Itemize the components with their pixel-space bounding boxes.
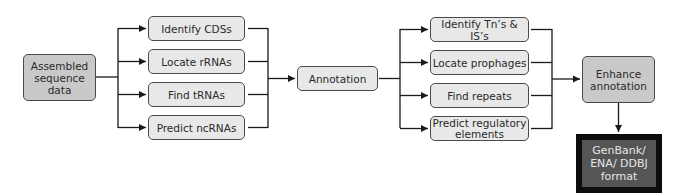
step-predict-ncrnas: Predict ncRNAs: [148, 115, 245, 140]
step-label: Locate prophages: [433, 57, 527, 69]
step-label: Find tRNAs: [168, 89, 225, 101]
step-predict-regulatory: Predict regulatory elements: [430, 116, 529, 141]
connector-lines: [0, 0, 674, 196]
annotation-label: Annotation: [309, 73, 367, 85]
step-identify-tn-is: Identify Tn’s & IS’s: [430, 17, 529, 42]
step-locate-prophages: Locate prophages: [430, 50, 529, 75]
step-locate-rrnas: Locate rRNAs: [148, 49, 245, 74]
step-identify-cds: Identify CDSs: [148, 16, 245, 41]
step-label: Find repeats: [447, 90, 512, 102]
enhance-annotation-box: Enhance annotation: [582, 56, 655, 103]
step-find-trnas: Find tRNAs: [148, 82, 245, 107]
step-label: Identify CDSs: [161, 23, 232, 35]
output-label: GenBank/ ENA/ DDBJ format: [586, 144, 652, 183]
input-label: Assembled sequence data: [24, 60, 95, 96]
step-label: Locate rRNAs: [161, 56, 231, 68]
annotation-box: Annotation: [297, 66, 378, 91]
annotation-pipeline-diagram: Assembled sequence data Identify CDSs Lo…: [0, 0, 674, 196]
step-find-repeats: Find repeats: [430, 83, 529, 108]
enhance-label: Enhance annotation: [583, 68, 654, 92]
step-label: Predict regulatory elements: [431, 118, 528, 140]
step-label: Identify Tn’s & IS’s: [431, 18, 528, 42]
output-format-box: GenBank/ ENA/ DDBJ format: [576, 134, 662, 193]
input-box: Assembled sequence data: [23, 54, 96, 101]
step-label: Predict ncRNAs: [157, 122, 237, 134]
